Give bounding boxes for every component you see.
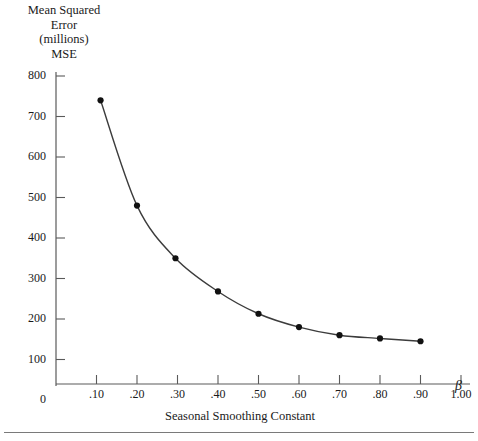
y-tick-label: 800 [12, 68, 46, 83]
page-horizontal-rule [4, 432, 474, 433]
data-point-marker [97, 97, 103, 103]
x-tick-label: .90 [401, 387, 441, 402]
data-point-marker [336, 332, 342, 338]
chart-figure: Mean Squared Error (millions) MSE 010020… [0, 0, 478, 441]
beta-symbol-label: β [455, 378, 462, 394]
y-tick-label: 100 [12, 352, 46, 367]
x-axis-title: Seasonal Smoothing Constant [60, 409, 420, 424]
plot-area [0, 0, 478, 441]
y-tick-label: 200 [12, 311, 46, 326]
y-tick-label: 400 [12, 230, 46, 245]
data-point-marker [134, 203, 140, 209]
data-series-line [101, 100, 421, 341]
x-tick-label: .80 [360, 387, 400, 402]
data-point-markers [97, 97, 423, 344]
data-point-marker [172, 255, 178, 261]
data-point-marker [417, 338, 423, 344]
x-tick-label: .60 [279, 387, 319, 402]
x-axis-ticks [97, 375, 462, 384]
data-point-marker [296, 324, 302, 330]
x-tick-label: .40 [198, 387, 238, 402]
y-axis-ticks [56, 76, 65, 360]
y-tick-label: 0 [12, 392, 46, 407]
data-point-marker [377, 335, 383, 341]
y-tick-label: 300 [12, 271, 46, 286]
x-tick-label: .30 [158, 387, 198, 402]
x-tick-label: .20 [117, 387, 157, 402]
data-point-marker [255, 311, 261, 317]
x-tick-label: .10 [77, 387, 117, 402]
x-tick-label: .70 [320, 387, 360, 402]
y-tick-label: 500 [12, 190, 46, 205]
data-point-marker [215, 288, 221, 294]
y-tick-label: 600 [12, 149, 46, 164]
y-tick-label: 700 [12, 109, 46, 124]
x-tick-label: .50 [239, 387, 279, 402]
axis-lines [56, 72, 470, 386]
